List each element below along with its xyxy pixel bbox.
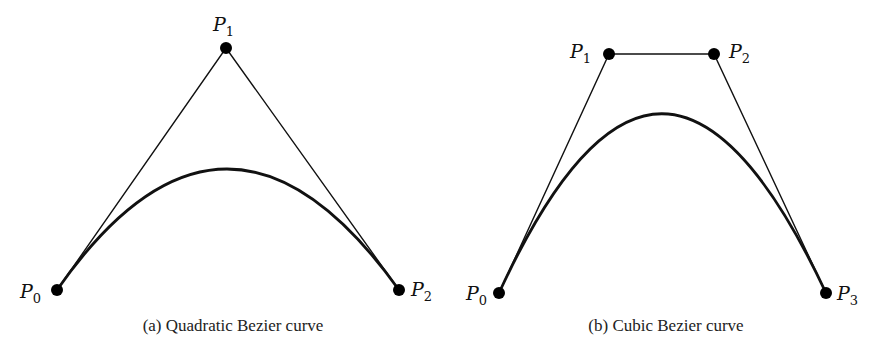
label-p0: P0 xyxy=(19,280,41,306)
quadratic-curve xyxy=(57,169,399,290)
quadratic-bezier-figure: P0 P1 P2 (a) Quadratic Bezier curve xyxy=(19,13,432,335)
control-point-p3 xyxy=(820,287,832,299)
label-p3: P3 xyxy=(836,282,858,308)
control-point-p2 xyxy=(393,284,405,296)
label-p2: P2 xyxy=(410,278,432,304)
label-p2: P2 xyxy=(728,40,750,66)
label-p0: P0 xyxy=(465,282,487,308)
cubic-curve xyxy=(499,114,826,293)
label-p1: P1 xyxy=(569,40,591,66)
caption-a: (a) Quadratic Bezier curve xyxy=(143,316,324,335)
control-point-p0 xyxy=(51,284,63,296)
control-polygon xyxy=(499,54,826,293)
control-point-p1 xyxy=(220,42,232,54)
control-point-p0 xyxy=(493,287,505,299)
cubic-bezier-figure: P0 P1 P2 P3 (b) Cubic Bezier curve xyxy=(465,40,858,335)
bezier-diagram: P0 P1 P2 (a) Quadratic Bezier curve P0 P… xyxy=(0,0,883,354)
control-point-p1 xyxy=(603,48,615,60)
caption-b: (b) Cubic Bezier curve xyxy=(588,316,743,335)
control-point-p2 xyxy=(708,48,720,60)
label-p1: P1 xyxy=(212,13,234,39)
